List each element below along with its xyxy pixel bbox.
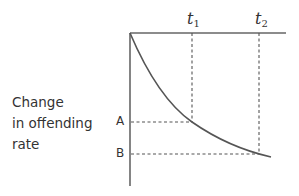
y-axis-label-line: Change bbox=[12, 92, 92, 113]
offending-rate-diagram: Change in offending rate A B t1 t2 bbox=[0, 0, 299, 196]
t1-label: t1 bbox=[187, 9, 200, 29]
t2-subscript: 2 bbox=[261, 18, 267, 29]
y-axis-label-line: rate bbox=[12, 134, 92, 155]
t2-label: t2 bbox=[255, 9, 268, 29]
tick-label-a: A bbox=[116, 114, 124, 128]
decay-curve bbox=[130, 33, 271, 157]
y-axis-label-line: in offending bbox=[12, 113, 92, 134]
tick-label-b: B bbox=[116, 146, 124, 160]
t1-subscript: 1 bbox=[193, 18, 199, 29]
y-axis-label: Change in offending rate bbox=[12, 92, 92, 155]
